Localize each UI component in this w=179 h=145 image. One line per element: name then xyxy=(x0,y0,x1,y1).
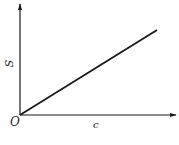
y-axis-label: S xyxy=(4,60,15,68)
origin-label: O xyxy=(10,116,20,128)
data-line xyxy=(20,30,157,115)
diagram-canvas xyxy=(0,0,179,145)
x-axis-label: c xyxy=(93,120,99,130)
